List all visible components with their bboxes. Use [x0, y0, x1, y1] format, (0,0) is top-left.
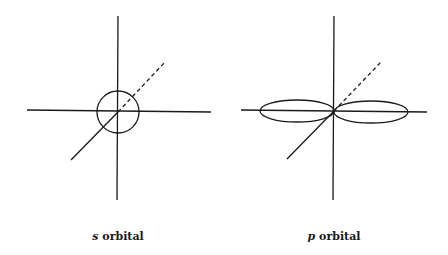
s-vertical-axis: [117, 16, 118, 200]
s-depth-axis-front: [71, 112, 118, 160]
s-orbital-caption: s orbital: [92, 230, 143, 243]
p-orbital-caption: p orbital: [308, 230, 361, 243]
p-depth-axis-front: [287, 111, 334, 159]
s-orbital-figure: [27, 16, 211, 200]
p-caption-text: orbital: [315, 230, 360, 243]
orbital-diagram: [0, 0, 448, 255]
s-caption-text: orbital: [98, 230, 143, 243]
p-depth-axis-back: [334, 62, 381, 111]
p-orbital-figure: [241, 16, 427, 200]
s-depth-axis-back: [118, 62, 165, 112]
p-symbol: p: [308, 230, 316, 243]
